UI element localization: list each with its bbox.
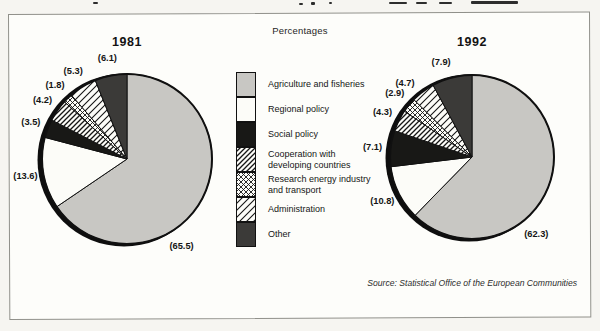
legend-swatch-agriculture (236, 72, 256, 97)
pie-value-label-1992-0: (62.3) (524, 229, 548, 239)
pie-value-label-1981-2: (3.5) (21, 117, 40, 127)
source-note: Source: Statistical Office of the Europe… (367, 278, 577, 288)
legend-label: Administration (268, 204, 374, 215)
pie-value-label-1981-1: (13.6) (13, 171, 37, 181)
legend-label: Agriculture and fisheries (268, 79, 374, 90)
pie-value-label-1981-5: (5.3) (64, 66, 83, 76)
pie-value-label-1992-4: (2.9) (385, 88, 404, 98)
legend-swatch-social (236, 122, 256, 147)
legend-item-administration: Administration (236, 197, 374, 222)
legend-label: Social policy (268, 129, 374, 140)
pie-value-label-1992-3: (4.3) (373, 107, 392, 117)
legend-label: Regional policy (268, 104, 374, 115)
legend-swatch-cooperation (236, 147, 256, 172)
legend-item-other: Other (236, 222, 374, 247)
legend-item-research: Research energy industry and transport (236, 172, 374, 197)
legend-item-regional: Regional policy (236, 97, 374, 122)
legend-label: Cooperation with developing countries (268, 149, 374, 170)
pie-value-label-1981-3: (4.2) (33, 95, 52, 105)
legend-item-agriculture: Agriculture and fisheries (236, 72, 374, 97)
legend-item-social: Social policy (236, 122, 374, 147)
pie-value-label-1981-0: (65.5) (169, 241, 193, 251)
legend-swatch-administration (236, 197, 256, 222)
pie-value-label-1992-6: (7.9) (432, 57, 451, 67)
legend-label: Research energy industry and transport (268, 174, 374, 195)
pie-value-label-1981-4: (1.8) (46, 80, 65, 90)
legend-item-cooperation: Cooperation with developing countries (236, 147, 374, 172)
legend-swatch-regional (236, 97, 256, 122)
legend-swatch-other (236, 222, 256, 247)
scanned-chart-page: Percentages 19811992 (65.5)(13.6)(3.5)(4… (0, 0, 600, 331)
pie-value-label-1981-6: (6.1) (98, 53, 117, 63)
legend-label: Other (268, 229, 374, 240)
legend: Agriculture and fisheriesRegional policy… (236, 72, 374, 247)
pie-value-label-1992-5: (4.7) (396, 78, 415, 88)
legend-swatch-research (236, 172, 256, 197)
